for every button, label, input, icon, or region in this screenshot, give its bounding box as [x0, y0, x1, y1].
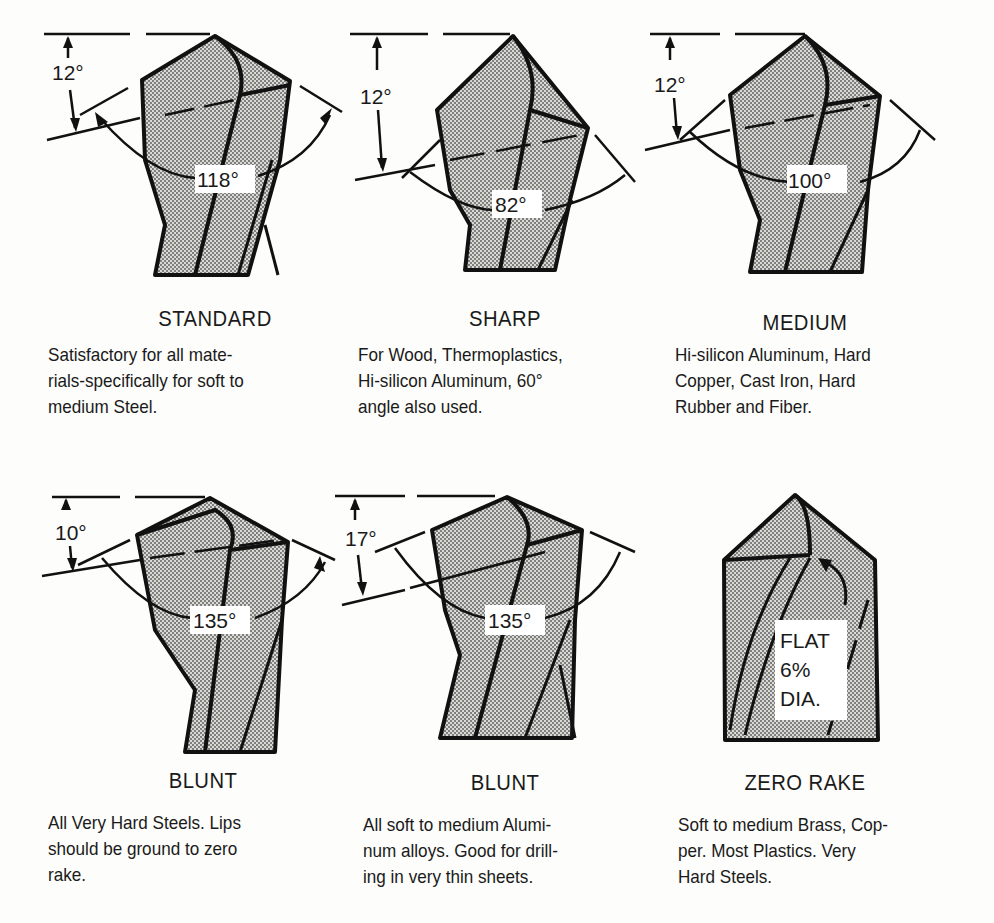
drill-title-sharp: SHARP: [358, 306, 652, 332]
drill-description-standard: Satisfactory for all mate- rials-specifi…: [48, 342, 244, 420]
desc-line: Hi-silicon Aluminum, Hard: [675, 342, 871, 368]
point-angle-label: 118°: [197, 168, 239, 191]
point-angle-label: 82°: [495, 193, 527, 216]
desc-line: medium Steel.: [48, 394, 244, 420]
lip-angle-label: 12°: [52, 61, 84, 84]
drill-title-zero-rake: ZERO RAKE: [658, 770, 952, 796]
drill-description-medium: Hi-silicon Aluminum, Hard Copper, Cast I…: [675, 342, 871, 420]
desc-line: per. Most Plastics. Very: [678, 838, 888, 864]
dia-label: DIA.: [780, 687, 821, 710]
desc-line: Rubber and Fiber.: [675, 394, 871, 420]
drill-zero-rake-figure: FLAT 6% DIA.: [700, 480, 900, 760]
desc-line: rake.: [48, 862, 241, 888]
lip-angle-label: 12°: [654, 73, 686, 96]
desc-line: All soft to medium Alumi-: [363, 812, 558, 838]
desc-line: should be ground to zero: [48, 836, 241, 862]
flat-label: FLAT: [780, 629, 830, 652]
drill-medium-figure: 12° 100°: [640, 0, 994, 290]
desc-line: Hi-silicon Aluminum, 60°: [358, 368, 563, 394]
drill-description-sharp: For Wood, Thermoplastics, Hi-silicon Alu…: [358, 342, 563, 420]
desc-line: For Wood, Thermoplastics,: [358, 342, 563, 368]
desc-line: Soft to medium Brass, Cop-: [678, 812, 888, 838]
drill-title-blunt-steel: BLUNT: [56, 768, 350, 794]
point-angle-label: 135°: [488, 609, 531, 632]
point-angle-label: 135°: [193, 609, 236, 632]
desc-line: Copper, Cast Iron, Hard: [675, 368, 871, 394]
lip-angle-label: 12°: [360, 85, 392, 108]
desc-line: Satisfactory for all mate-: [48, 342, 244, 368]
desc-line: All Very Hard Steels. Lips: [48, 810, 241, 836]
desc-line: angle also used.: [358, 394, 563, 420]
drill-title-blunt-aluminum: BLUNT: [358, 770, 652, 796]
point-angle-label: 100°: [788, 169, 831, 192]
lip-angle-label: 10°: [55, 521, 87, 544]
drill-blunt-aluminum-figure: 17° 135°: [330, 480, 660, 760]
drill-standard-figure: 12° 118°: [0, 0, 340, 290]
desc-line: rials-specifically for soft to: [48, 368, 244, 394]
lip-angle-label: 17°: [345, 527, 377, 550]
drill-title-medium: MEDIUM: [658, 310, 952, 336]
drill-description-blunt-steel: All Very Hard Steels. Lips should be gro…: [48, 810, 241, 888]
drill-description-blunt-aluminum: All soft to medium Alumi- num alloys. Go…: [363, 812, 558, 890]
desc-line: num alloys. Good for drill-: [363, 838, 558, 864]
drill-sharp-figure: 12° 82°: [340, 0, 660, 290]
drill-title-standard: STANDARD: [68, 306, 362, 332]
drill-blunt-steel-figure: 10° 135°: [0, 480, 340, 760]
percent-label: 6%: [780, 658, 810, 681]
drill-description-zero-rake: Soft to medium Brass, Cop- per. Most Pla…: [678, 812, 888, 890]
desc-line: ing in very thin sheets.: [363, 864, 558, 890]
desc-line: Hard Steels.: [678, 864, 888, 890]
